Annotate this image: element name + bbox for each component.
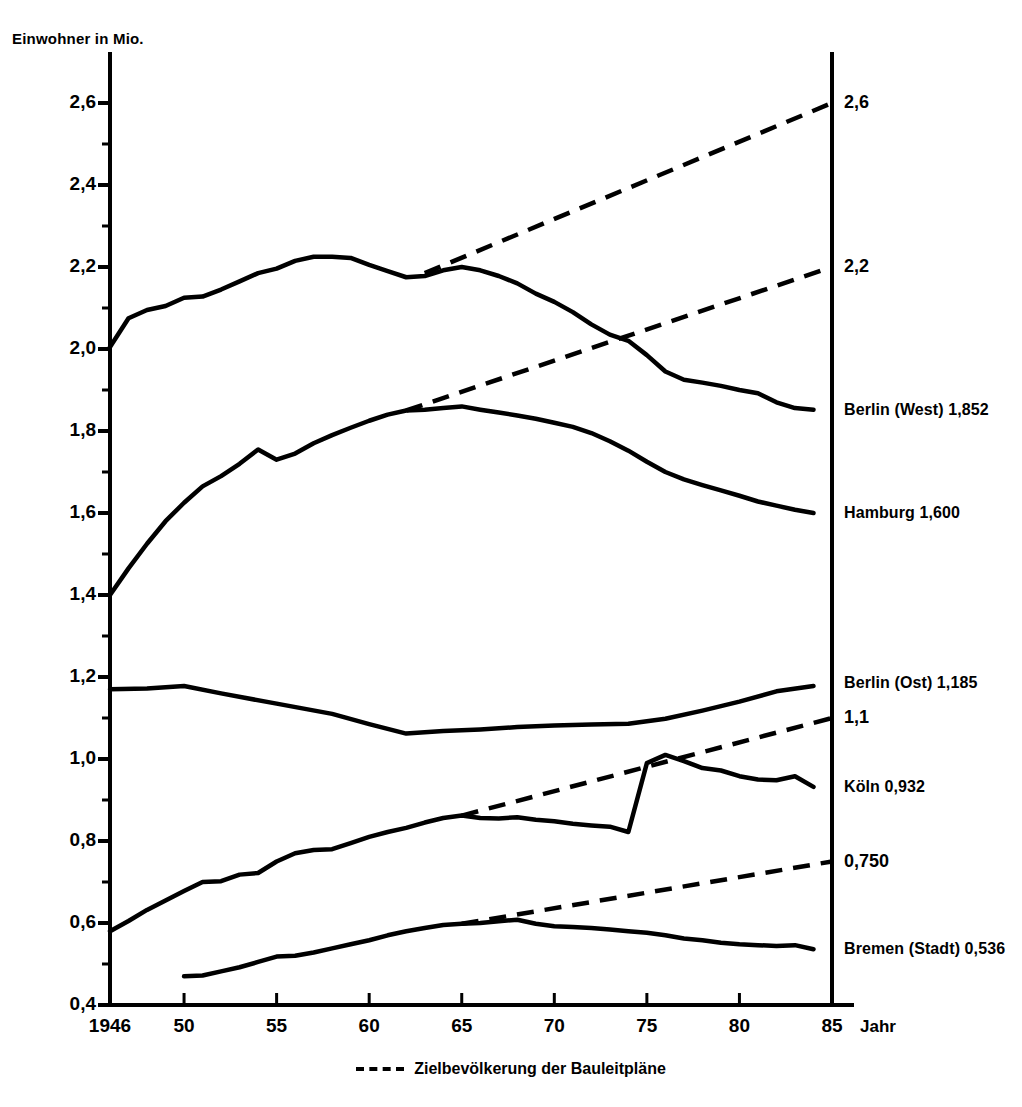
series-line-0 <box>110 257 813 410</box>
target-end-label: 2,2 <box>844 256 869 277</box>
target-lines-group <box>406 103 832 924</box>
series-line-4 <box>184 920 813 977</box>
series-line-3 <box>110 755 813 931</box>
x-tick-label: 65 <box>417 1015 507 1037</box>
target-line-3 <box>462 862 832 924</box>
y-tick-label: 1,8 <box>34 419 96 441</box>
series-end-label: Hamburg 1,600 <box>844 504 960 522</box>
x-tick-label: 55 <box>232 1015 322 1037</box>
legend-label: Zielbevölkerung der Bauleitpläne <box>414 1060 666 1078</box>
series-line-2 <box>110 686 813 734</box>
target-end-label: 2,6 <box>844 92 869 113</box>
y-tick-label: 2,2 <box>34 255 96 277</box>
target-end-label: 0,750 <box>844 851 889 872</box>
y-tick-label: 2,4 <box>34 173 96 195</box>
series-line-1 <box>110 406 813 595</box>
y-tick-label: 0,4 <box>34 993 96 1015</box>
x-tick-label: 70 <box>509 1015 599 1037</box>
axes-group <box>98 52 854 1005</box>
y-tick-label: 1,6 <box>34 501 96 523</box>
y-tick-label: 1,0 <box>34 747 96 769</box>
y-tick-label: 1,2 <box>34 665 96 687</box>
chart-legend: Zielbevölkerung der Bauleitpläne <box>0 1060 1022 1078</box>
x-tick-label: 75 <box>602 1015 692 1037</box>
population-chart: Einwohner in Mio. 0,40,60,81,01,21,41,61… <box>0 0 1022 1107</box>
series-end-label: Berlin (West) 1,852 <box>844 401 989 419</box>
series-end-label: Bremen (Stadt) 0,536 <box>844 940 1005 958</box>
dashed-line-icon <box>356 1067 404 1071</box>
target-line-0 <box>425 103 832 273</box>
y-tick-label: 0,6 <box>34 911 96 933</box>
target-line-1 <box>406 267 832 411</box>
y-tick-label: 0,8 <box>34 829 96 851</box>
target-end-label: 1,1 <box>844 707 869 728</box>
x-tick-label: 50 <box>139 1015 229 1037</box>
series-end-label: Köln 0,932 <box>844 778 925 796</box>
y-tick-label: 1,4 <box>34 583 96 605</box>
x-tick-label: 80 <box>694 1015 784 1037</box>
y-tick-label: 2,0 <box>34 337 96 359</box>
series-end-label: Berlin (Ost) 1,185 <box>844 674 977 692</box>
data-series-group <box>110 257 813 977</box>
x-tick-label: 60 <box>324 1015 414 1037</box>
x-axis-title: Jahr <box>860 1017 896 1037</box>
y-tick-label: 2,6 <box>34 91 96 113</box>
